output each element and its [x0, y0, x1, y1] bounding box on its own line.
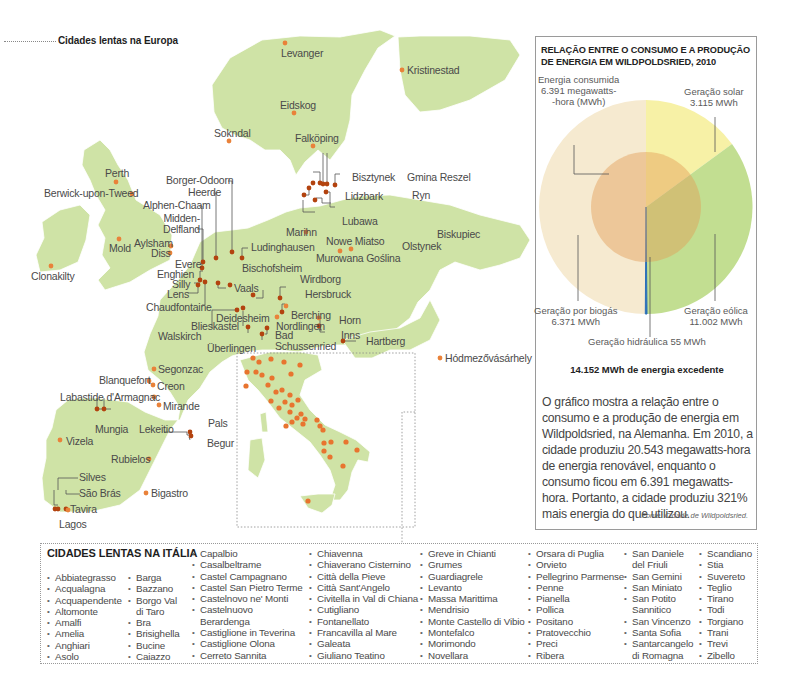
energy-infobox: RELAÇÃO ENTRE O CONSUMO E A PRODUÇÃO DE … [535, 36, 757, 530]
sicily-landmass [300, 494, 335, 513]
italy-landmass [240, 352, 370, 500]
city-label: São Brás [79, 488, 121, 499]
infobox-source: Fonte: Cidade de Wildpoldsried. [641, 511, 748, 520]
italy-city-item: Grumes [420, 559, 525, 570]
italy-list-column-1: AbbiategrassoAcqualagnaAcquapendenteAlto… [47, 572, 122, 662]
label-hydro: Geração hidráulica 55 MWh [588, 336, 706, 347]
city-label: Wirdborg [300, 274, 341, 285]
italy-city-item: Santarcangelo [624, 638, 693, 649]
label-biogas: Geração por biogás 6.371 MWh [534, 305, 617, 327]
city-label: Blanquefort [99, 375, 151, 386]
italy-city-item: Trani [699, 627, 752, 638]
city-label: Bad Schussenried [275, 330, 336, 352]
italy-city-item: Castelnuovo [192, 604, 303, 615]
city-label: Lidzbark [345, 191, 383, 202]
italy-city-item: Torgiano [699, 616, 752, 627]
italy-city-item: Galeata [309, 638, 418, 649]
italy-city-item: Pratovecchio [528, 627, 624, 638]
italy-city-item: Orsara di Puglia [528, 548, 624, 559]
italy-city-item: Castel Campagnano [192, 571, 303, 582]
city-label: Sokndal [214, 128, 251, 139]
city-label: Midden- Delfland [163, 213, 200, 235]
consumption-overlay [591, 152, 701, 262]
italy-city-item: Brisighella [128, 628, 180, 639]
italy-connector-line [402, 412, 415, 543]
label-solar: Geração solar 3.115 MWh [684, 86, 744, 108]
italy-city-item: Levanto [420, 582, 525, 593]
city-label: Lubawa [342, 216, 378, 227]
city-label: Horn [339, 315, 361, 326]
city-label: Falköping [295, 133, 339, 144]
italy-city-item: Castelnovo ne' Monti [192, 593, 303, 604]
italy-city-item: Stia [699, 559, 752, 570]
city-label: Hartberg [366, 336, 405, 347]
italy-list-title: CIDADES LENTAS NA ITÁLIA [47, 547, 197, 559]
italy-city-item: Bra [128, 617, 180, 628]
italy-city-item: Suvereto [699, 571, 752, 582]
italy-city-item: Castel San Pietro Terme [192, 582, 303, 593]
italy-city-item: Cerreto Sannita [192, 650, 303, 661]
city-label: Ludinghausen [251, 242, 315, 253]
italy-city-item: Asolo [47, 651, 122, 662]
italy-list-column-6: Orsara di PugliaOrvietoPellegrino Parmen… [528, 548, 624, 661]
city-label: Diss [151, 248, 171, 259]
italy-city-item: Città della Pieve [309, 571, 418, 582]
city-label: Alphen-Chaam [143, 200, 211, 211]
city-label: Lagos [59, 519, 87, 530]
city-label: Clonakilty [31, 271, 75, 282]
city-label: Vizela [66, 436, 93, 447]
italy-city-item: Todi [699, 604, 752, 615]
city-label: Biskupiec [437, 229, 480, 240]
italy-city-item: Bucine [128, 640, 180, 651]
italy-city-item: Monte Castello di Vibio [420, 616, 525, 627]
italy-city-item: Acquapendente [47, 595, 122, 606]
italy-city-item: Amalfi [47, 617, 122, 628]
italy-city-item: San Miniato [624, 582, 693, 593]
city-label: Tavira [70, 504, 97, 515]
italy-city-item: Santa Sofia [624, 627, 693, 638]
city-label: Pals [208, 418, 228, 429]
city-label: Chaudfontaine [146, 302, 212, 313]
city-label: Eidskog [280, 100, 316, 111]
italy-city-item: Castiglione in Teverina [192, 627, 303, 638]
italy-city-continuation: di Taro [128, 606, 180, 617]
italy-city-item: Pianella [528, 593, 624, 604]
italy-city-item: Novellara [420, 650, 525, 661]
italy-city-item: Civitella in Val di Chiana [309, 593, 418, 604]
italy-city-item: Pollica [528, 604, 624, 615]
italy-city-item: Bazzano [128, 583, 180, 594]
excess-energy-caption: 14.152 MWh de energia excedente [536, 364, 758, 375]
italy-city-item: Chiaverano Cisternino [309, 559, 418, 570]
city-label: Bischofsheim [242, 263, 302, 274]
city-label: Marihn [286, 227, 317, 238]
city-label: Borger-Odoorn [166, 175, 233, 186]
italy-city-item: Barga [128, 572, 180, 583]
italy-city-item: Castiglione Olona [192, 638, 303, 649]
city-label: Levanger [281, 48, 323, 59]
italy-city-item: Teglio [699, 582, 752, 593]
label-energy-consumed: Energia consumida 6.391 megawatts- -hora… [538, 74, 619, 107]
label-wind: Geração eólica 11.002 MWh [684, 305, 748, 327]
italy-city-item: Morimondo [420, 638, 525, 649]
italy-city-continuation: Berardenga [192, 616, 303, 627]
city-label: Lens [167, 289, 189, 300]
italy-city-item: Capalbio [192, 548, 303, 559]
italy-city-item: Città Sant'Angelo [309, 582, 418, 593]
city-label: Berwick-upon-Tweed [44, 188, 138, 199]
italy-city-item: Trevi [699, 638, 752, 649]
city-label: Überlingen [207, 343, 256, 354]
italy-city-item: Montefalco [420, 627, 525, 638]
city-label: Kristinestad [407, 65, 459, 76]
italy-city-continuation: Sannitico [624, 604, 693, 615]
city-label: Bisztynek [352, 172, 395, 183]
city-label: Segonzac [158, 364, 203, 375]
italy-city-item: Chiavenna [309, 548, 418, 559]
city-label: Begur [207, 438, 234, 449]
city-label: Gmina Reszel [407, 172, 471, 183]
city-label: Perth [105, 168, 129, 179]
italy-city-item: Caiazzo [128, 651, 180, 662]
italy-city-item: Scandiano [699, 548, 752, 559]
city-label: Mungia [95, 424, 128, 435]
italy-city-item: Giuliano Teatino [309, 650, 418, 661]
italy-city-item: Tirano [699, 593, 752, 604]
